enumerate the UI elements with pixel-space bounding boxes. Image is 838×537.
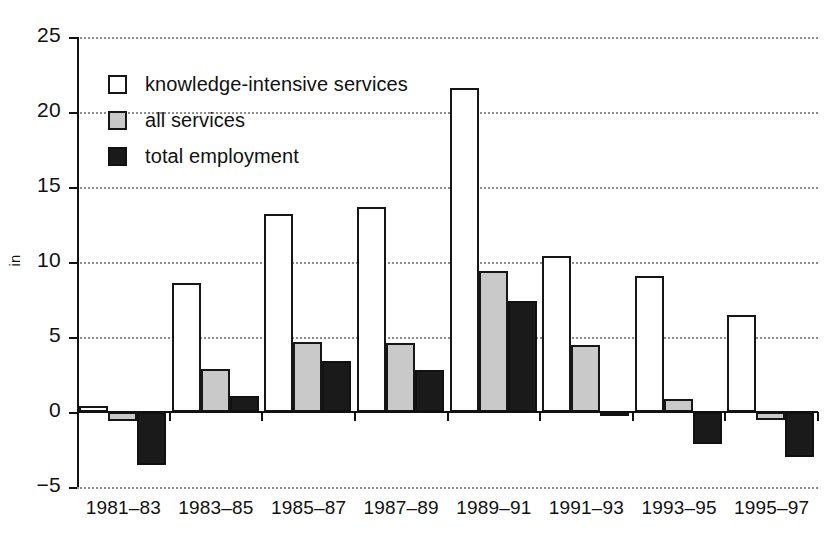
- y-axis-tick-label: −5: [9, 473, 61, 497]
- x-axis-tick-mark: [632, 412, 634, 421]
- bar-total-employment-1981-83: [137, 412, 166, 465]
- bar-knowledge-intensive-services-1995-97: [727, 315, 756, 413]
- bar-all-services-1991-93: [571, 345, 600, 413]
- bar-all-services-1987-89: [386, 343, 415, 412]
- x-axis-tick-label: 1981–83: [77, 497, 170, 519]
- y-axis-tick-mark: [69, 262, 77, 264]
- y-axis-tick-mark: [69, 412, 77, 414]
- legend-label: all services: [145, 109, 245, 132]
- x-axis-tick-mark: [354, 412, 356, 421]
- gridline: [77, 187, 818, 189]
- y-axis-tick-mark: [69, 337, 77, 339]
- x-axis-tick-mark: [447, 412, 449, 421]
- x-axis-tick-label: 1985–87: [262, 497, 355, 519]
- bar-total-employment-1995-97: [785, 412, 814, 457]
- bar-all-services-1983-85: [201, 369, 230, 413]
- x-axis-tick-label: 1987–89: [355, 497, 448, 519]
- y-axis-tick-mark: [69, 37, 77, 39]
- y-axis-tick-mark: [69, 187, 77, 189]
- legend-item-all-services: all services: [108, 104, 408, 136]
- bar-knowledge-intensive-services-1985-87: [264, 214, 293, 412]
- x-axis-tick-mark: [261, 412, 263, 421]
- legend-swatch-white-square-outline-icon: [108, 75, 127, 94]
- x-axis-tick-mark: [169, 412, 171, 421]
- x-axis-tick-label: 1991–93: [540, 497, 633, 519]
- legend-label: total employment: [145, 145, 299, 168]
- y-axis-tick-label: 10: [9, 248, 61, 272]
- bar-knowledge-intensive-services-1987-89: [357, 207, 386, 413]
- bar-all-services-1981-83: [108, 412, 137, 421]
- bar-all-services-1989-91: [479, 271, 508, 412]
- bar-knowledge-intensive-services-1993-95: [635, 276, 664, 413]
- x-axis-tick-label: 1989–91: [448, 497, 541, 519]
- legend-swatch-black-square-icon: [108, 147, 127, 166]
- x-axis-tick-label: 1983–85: [170, 497, 263, 519]
- x-axis-tick-label: 1993–95: [633, 497, 726, 519]
- bar-chart: in 2520151050−5 1981–831983–851985–87198…: [0, 0, 838, 537]
- bar-total-employment-1993-95: [693, 412, 722, 444]
- x-axis-tick-mark: [817, 412, 819, 421]
- y-axis-tick-label: 0: [9, 398, 61, 422]
- y-axis-tick-label: 15: [9, 173, 61, 197]
- gridline: [77, 262, 818, 264]
- y-axis-tick-mark: [69, 112, 77, 114]
- x-axis-tick-mark: [539, 412, 541, 421]
- y-axis-tick-label: 20: [9, 98, 61, 122]
- gridline: [77, 37, 818, 39]
- bar-total-employment-1987-89: [415, 370, 444, 412]
- y-axis-line: [77, 37, 79, 487]
- bar-all-services-1985-87: [293, 342, 322, 413]
- bar-knowledge-intensive-services-1983-85: [172, 283, 201, 412]
- bar-knowledge-intensive-services-1989-91: [450, 88, 479, 412]
- x-axis-tick-mark: [724, 412, 726, 421]
- y-axis-tick-mark: [69, 487, 77, 489]
- legend-swatch-gray-square-icon: [108, 111, 127, 130]
- y-axis-tick-label: 5: [9, 323, 61, 347]
- bar-all-services-1993-95: [664, 399, 693, 413]
- bar-total-employment-1989-91: [508, 301, 537, 412]
- bar-all-services-1995-97: [756, 412, 785, 420]
- bar-total-employment-1983-85: [230, 396, 259, 413]
- legend-item-knowledge-intensive-services: knowledge-intensive services: [108, 68, 408, 100]
- x-axis-tick-label: 1995–97: [725, 497, 818, 519]
- gridline: [77, 487, 818, 489]
- bar-knowledge-intensive-services-1991-93: [542, 256, 571, 412]
- bar-total-employment-1985-87: [322, 361, 351, 412]
- chart-legend: knowledge-intensive services all service…: [108, 68, 408, 176]
- y-axis-tick-label: 25: [9, 23, 61, 47]
- legend-label: knowledge-intensive services: [145, 73, 408, 96]
- legend-item-total-employment: total employment: [108, 140, 408, 172]
